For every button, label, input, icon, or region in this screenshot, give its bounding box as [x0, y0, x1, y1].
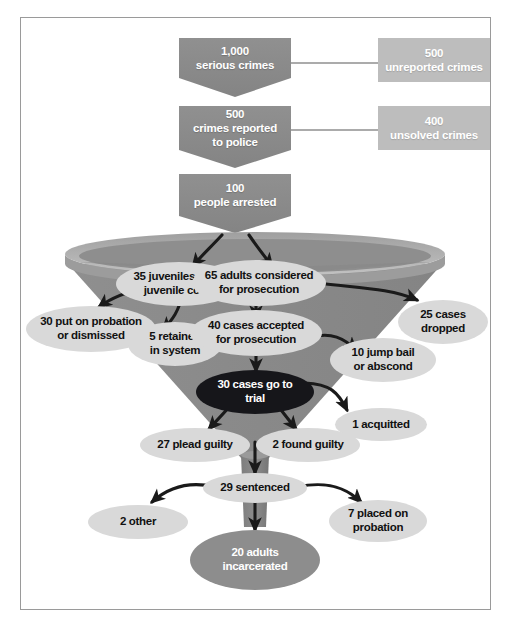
node-found-guilty: 2 found guilty: [256, 428, 360, 462]
node-line1: 1 acquitted: [352, 418, 409, 432]
node-line2: in system: [149, 344, 200, 358]
node-line1: 30 cases go to: [217, 378, 292, 392]
node-line1: 20 adults: [223, 546, 288, 560]
side-box-label: unreported crimes: [385, 60, 483, 74]
side-box-number: 500: [385, 46, 483, 60]
node-cases-accepted: 40 cases accepted for prosecution: [190, 310, 322, 356]
node-sentenced: 29 sentenced: [203, 473, 307, 503]
flow-box-people-arrested: 100 people arrested: [179, 174, 291, 216]
node-cases-dropped: 25 cases dropped: [398, 300, 488, 344]
flow-box-label-line2: to police: [193, 135, 277, 149]
flow-box-label-line1: crimes reported: [193, 121, 277, 135]
node-line1: 30 put on probation: [40, 315, 142, 329]
connector-lines: [291, 63, 378, 130]
flow-box-label: people arrested: [194, 195, 277, 209]
diagram-canvas: 1,000 serious crimes 500 crimes reported…: [0, 0, 510, 627]
node-line1: 25 cases: [420, 308, 466, 322]
node-placed-probation: 7 placed on probation: [329, 500, 427, 542]
node-line2: or abscond: [352, 360, 415, 374]
node-other: 2 other: [88, 505, 188, 539]
node-incarcerated: 20 adults incarcerated: [190, 530, 320, 590]
node-jump-bail: 10 jump bail or abscond: [330, 338, 436, 382]
node-plead-guilty: 27 plead guilty: [140, 428, 250, 462]
node-line1: 40 cases accepted: [208, 319, 304, 333]
node-adults-considered: 65 adults considered for prosecution: [192, 260, 326, 306]
side-box-unsolved-crimes: 400 unsolved crimes: [378, 106, 490, 150]
node-line2: for prosecution: [208, 333, 304, 347]
node-line2: trial: [217, 392, 292, 406]
side-box-number: 400: [390, 114, 478, 128]
node-cases-to-trial: 30 cases go to trial: [196, 370, 314, 414]
node-line1: 65 adults considered: [205, 269, 313, 283]
node-line1: 2 found guilty: [272, 438, 343, 452]
node-line1: 7 placed on: [348, 507, 408, 521]
flow-box-number: 500: [193, 107, 277, 121]
side-box-unreported-crimes: 500 unreported crimes: [378, 38, 490, 82]
flow-box-serious-crimes: 1,000 serious crimes: [179, 38, 291, 78]
node-line2: or dismissed: [40, 329, 142, 343]
node-line1: 27 plead guilty: [157, 438, 232, 452]
node-line2: dropped: [420, 322, 466, 336]
node-line1: 29 sentenced: [220, 481, 289, 495]
node-line2: incarcerated: [223, 560, 288, 574]
flow-box-number: 100: [194, 181, 277, 195]
flow-box-number: 1,000: [196, 44, 274, 58]
flow-box-crimes-reported: 500 crimes reported to police: [179, 106, 291, 150]
node-line1: 2 other: [120, 515, 156, 529]
node-line1: 10 jump bail: [352, 346, 415, 360]
node-line2: probation: [348, 521, 408, 535]
side-box-label: unsolved crimes: [390, 128, 478, 142]
node-line2: for prosecution: [205, 283, 313, 297]
flow-box-label: serious crimes: [196, 58, 274, 72]
